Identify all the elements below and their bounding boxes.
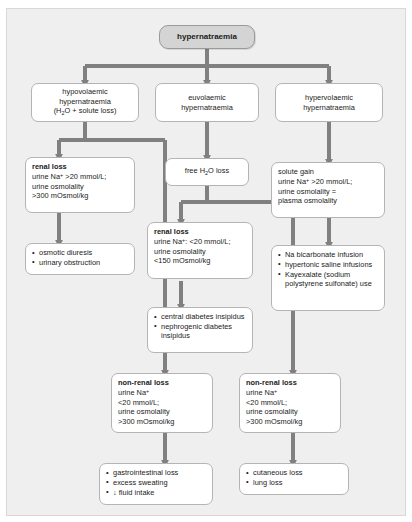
list-item: urinary obstruction [32,258,128,267]
list-item: Na bicarbonate infusion [278,250,378,259]
list-item: osmotic diuresis [32,248,128,257]
node-free-water-loss[interactable]: free H2O loss [165,158,249,186]
hypovolaemic-line3: (H2O + solute loss) [54,106,117,118]
node-hypovolaemic[interactable]: hypovolaemic hypernatraemia (H2O + solut… [31,83,139,122]
node-causes-non-renal-euvolaemic[interactable]: cutaneous loss lung loss [239,463,349,495]
non-renal-left-line4: >300 mOsmol/kg [118,417,206,426]
renal-loss-left-line2: urine osmolality [32,182,128,191]
solute-gain-line1: urine Na+ >20 mmol/L; [278,176,378,186]
node-solute-gain[interactable]: solute gain urine Na+ >20 mmol/L; urine … [271,162,385,218]
renal-loss-left-line3: >300 mOsmol/kg [32,191,128,200]
node-causes-solute-gain[interactable]: Na bicarbonate infusion hypertonic salin… [271,245,385,311]
causes-solute-gain-list: Na bicarbonate infusion hypertonic salin… [278,250,378,289]
node-hypernatraemia-label: hypernatraemia [177,32,237,41]
renal-loss-left-title: renal loss [32,162,128,171]
hypervolaemic-line2: hypernatraemia [303,103,355,112]
causes-renal-mid-list: central diabetes insipidus nephrogenic d… [154,312,246,341]
solute-gain-title: solute gain [278,167,378,176]
non-renal-left-line1: urine Na+ [118,387,206,397]
hypervolaemic-line1: hypervolaemic [305,93,353,102]
list-item: gastrointestinal loss [106,468,206,477]
renal-loss-mid-line2: urine osmolality [154,247,246,256]
node-causes-renal-loss-euvolaemic[interactable]: central diabetes insipidus nephrogenic d… [147,307,253,353]
list-item: ↓ fluid intake [106,488,206,497]
node-causes-non-renal-hypovolaemic[interactable]: gastrointestinal loss excess sweating ↓ … [99,463,213,505]
list-item: central diabetes insipidus [154,312,246,321]
non-renal-left-line2: <20 mmol/L; [118,398,206,407]
non-renal-right-title: non-renal loss [246,378,334,387]
node-non-renal-loss-hypovolaemic[interactable]: non-renal loss urine Na+ <20 mmol/L; uri… [111,373,213,433]
euvolaemic-line2: hypernatraemia [181,103,233,112]
node-non-renal-loss-euvolaemic[interactable]: non-renal loss urine Na+ <20 mmol/L; uri… [239,373,341,433]
node-euvolaemic[interactable]: euvolaemic hypernatraemia [155,83,259,122]
non-renal-left-title: non-renal loss [118,378,206,387]
causes-non-renal-left-list: gastrointestinal loss excess sweating ↓ … [106,468,206,497]
node-renal-loss-hypovolaemic[interactable]: renal loss urine Na+ >20 mmol/L; urine o… [25,157,135,213]
list-item: nephrogenic diabetes insipidus [154,322,246,341]
list-item: lung loss [246,478,342,487]
node-hypervolaemic[interactable]: hypervolaemic hypernatraemia [275,83,383,122]
solute-gain-line3: plasma osmolality [278,196,378,205]
list-item: cutaneous loss [246,468,342,477]
list-item: excess sweating [106,478,206,487]
node-causes-renal-loss-hypovolaemic[interactable]: osmotic diuresis urinary obstruction [25,243,135,275]
hypovolaemic-line2: hypernatraemia [59,97,111,106]
node-hypernatraemia[interactable]: hypernatraemia [159,25,255,49]
non-renal-right-line3: urine osmolality [246,407,334,416]
non-renal-right-line4: >300 mOsmol/kg [246,417,334,426]
renal-loss-mid-line3: <150 mOsmol/kg [154,256,246,265]
renal-loss-mid-title: renal loss [154,227,246,236]
solute-gain-line2: urine osmolality = [278,187,378,196]
hypovolaemic-line1: hypovolaemic [62,87,107,96]
list-item: Kayexalate (sodium polystyrene sulfonate… [278,270,378,289]
causes-non-renal-right-list: cutaneous loss lung loss [246,468,342,487]
free-water-loss-label: free H2O loss [185,166,229,178]
causes-renal-left-list: osmotic diuresis urinary obstruction [32,248,128,267]
list-item: hypertonic saline infusions [278,260,378,269]
renal-loss-left-line1: urine Na+ >20 mmol/L; [32,171,128,181]
renal-loss-mid-line1: urine Na+: <20 mmol/L; [154,236,246,246]
non-renal-right-line1: urine Na+ [246,387,334,397]
euvolaemic-line1: euvolaemic [188,93,226,102]
non-renal-right-line2: <20 mmol/L; [246,398,334,407]
non-renal-left-line3: urine osmolality [118,407,206,416]
node-renal-loss-euvolaemic[interactable]: renal loss urine Na+: <20 mmol/L; urine … [147,222,253,279]
flowchart-canvas: hypernatraemia hypovolaemic hypernatraem… [6,8,406,516]
